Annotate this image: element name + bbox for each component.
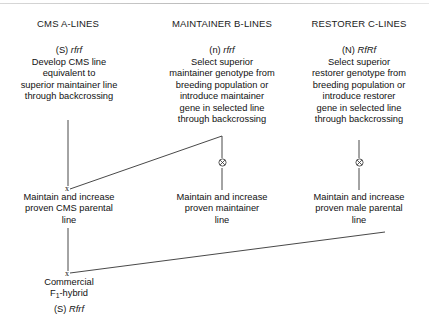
breeding-scheme-diagram: CMS A-LINES MAINTAINER B-LINES RESTORER … — [0, 0, 429, 325]
node-cms-develop-text: Develop CMS line equivalent to superior … — [0, 57, 138, 103]
column-header-cms: CMS A-LINES — [8, 18, 128, 29]
genotype-cms: (S) rfrf — [0, 44, 138, 56]
selfing-symbol-maintainer — [218, 158, 227, 167]
genotype-hybrid: (S) Rfrf — [8, 303, 130, 315]
node-restorer-select-text: Select superior restorer genotype from b… — [289, 57, 429, 125]
node-maintainer-select: (n) rfrf Select superior maintainer geno… — [150, 44, 294, 125]
hybrid-label-f1: F1-hybrid — [8, 288, 130, 299]
node-cms-maintain: Maintain and increase proven CMS parenta… — [0, 192, 138, 226]
column-header-maintainer: MAINTAINER B-LINES — [152, 18, 292, 29]
selfing-symbol-restorer — [355, 158, 364, 167]
genotype-restorer: (N) RfRf — [289, 44, 429, 56]
column-header-restorer: RESTORER C-LINES — [294, 18, 424, 29]
node-maintainer-maintain: Maintain and increase proven maintainer … — [152, 192, 292, 226]
node-commercial-hybrid: Commercial F1-hybrid (S) Rfrf — [8, 277, 130, 315]
node-restorer-select: (N) RfRf Select superior restorer genoty… — [289, 44, 429, 125]
hybrid-label-commercial: Commercial — [8, 277, 130, 288]
node-restorer-maintain: Maintain and increase proven male parent… — [289, 192, 429, 226]
genotype-maintainer: (n) rfrf — [150, 44, 294, 56]
top-divider-rule — [0, 3, 429, 4]
node-maintainer-select-text: Select superior maintainer genotype from… — [150, 57, 294, 125]
node-cms-develop: (S) rfrf Develop CMS line equivalent to … — [0, 44, 138, 103]
